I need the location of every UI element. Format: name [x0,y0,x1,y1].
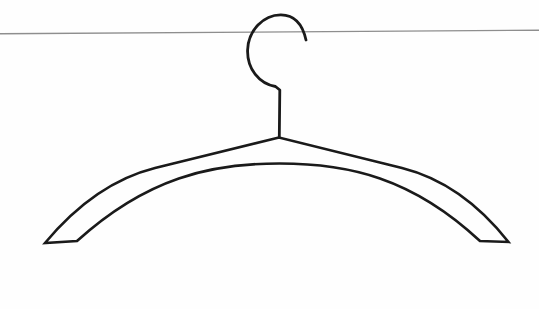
hanger-illustration [0,0,539,309]
scanned-illustration-page [0,0,539,309]
clothes-rail-line [0,30,539,34]
hanger-body-outline [45,138,509,244]
hanger-hook [248,15,306,137]
